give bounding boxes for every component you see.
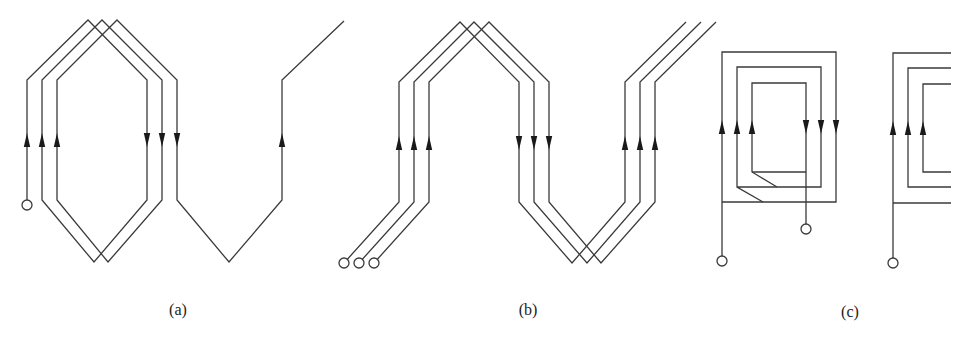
- arrow-down-icon: [144, 133, 150, 147]
- terminal-circle-icon: [22, 200, 32, 210]
- arrow-down-icon: [803, 120, 809, 134]
- arrow-up-icon: [637, 136, 643, 150]
- arrow-down-icon: [546, 136, 552, 150]
- terminal-circle-icon: [369, 258, 379, 268]
- arrow-up-icon: [734, 120, 740, 134]
- arrow-up-icon: [920, 121, 926, 135]
- arrow-up-icon: [396, 136, 402, 150]
- arrow-up-icon: [749, 120, 755, 134]
- wire-panel-c2: [923, 84, 951, 172]
- arrow-down-icon: [833, 120, 839, 134]
- wire-panel-c: [752, 83, 806, 224]
- wire-panel-c: [737, 67, 821, 202]
- arrow-up-icon: [426, 136, 432, 150]
- arrow-up-icon: [652, 136, 658, 150]
- terminal-circle-icon: [888, 258, 898, 268]
- arrow-up-icon: [890, 121, 896, 135]
- current-direction-arrows: [24, 120, 926, 150]
- arrow-down-icon: [174, 133, 180, 147]
- winding-wires: [27, 20, 951, 263]
- arrow-up-icon: [719, 120, 725, 134]
- terminal-circle-icon: [339, 258, 349, 268]
- arrow-down-icon: [818, 120, 824, 134]
- terminal-circle-icon: [717, 256, 727, 266]
- panel-label-b: (b): [519, 301, 538, 319]
- terminal-circle-icon: [801, 224, 811, 234]
- arrow-up-icon: [39, 133, 45, 147]
- arrow-down-icon: [516, 136, 522, 150]
- wire-panel-b: [344, 22, 686, 263]
- panel-label-a: (a): [169, 301, 187, 319]
- winding-diagram-figure: (a) (b) (c): [0, 0, 974, 340]
- terminal-circle-icon: [354, 258, 364, 268]
- panel-labels: (a) (b) (c): [169, 301, 859, 321]
- arrow-up-icon: [411, 136, 417, 150]
- arrow-up-icon: [54, 133, 60, 147]
- arrow-up-icon: [622, 136, 628, 150]
- arrow-up-icon: [279, 133, 285, 147]
- wire-panel-c2: [908, 68, 951, 187]
- arrow-down-icon: [531, 136, 537, 150]
- wire-panel-a: [27, 20, 344, 262]
- arrow-up-icon: [905, 121, 911, 135]
- arrow-up-icon: [24, 133, 30, 147]
- arrow-down-icon: [159, 133, 165, 147]
- panel-label-c: (c): [841, 303, 859, 321]
